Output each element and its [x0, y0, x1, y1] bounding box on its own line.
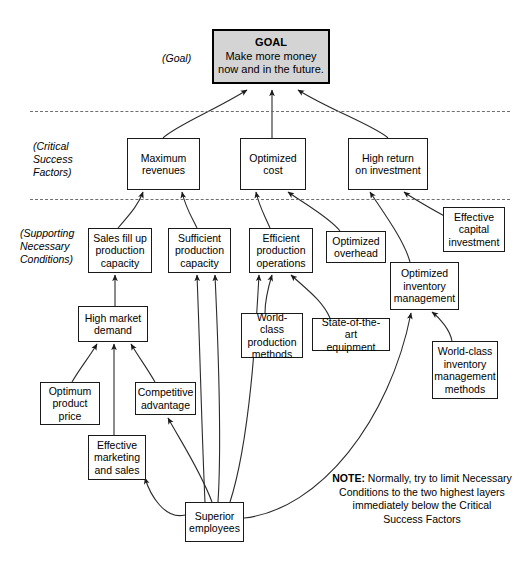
- node-superior-employees[interactable]: Superioremployees: [185, 502, 244, 542]
- node-world-class-production-methods[interactable]: World-classproductionmethods: [241, 313, 303, 358]
- divider-goal-csf: [30, 111, 510, 112]
- node-label: Competitiveadvantage: [138, 386, 193, 411]
- node-state-of-the-art-equipment[interactable]: State-of-the-artequipment: [312, 318, 390, 351]
- node-sales-fill-up-production-capacity[interactable]: Sales fill upproductioncapacity: [88, 228, 152, 273]
- goal-tree-diagram: (Goal)(CriticalSuccessFactors)(Supportin…: [0, 0, 532, 572]
- goal-line-2: now and in the future.: [218, 63, 324, 77]
- csf-label: (CriticalSuccessFactors): [33, 140, 113, 179]
- edge-e-salesfill-maxrev: [118, 192, 143, 228]
- node-goal[interactable]: GOALMake more moneynow and in the future…: [212, 29, 330, 84]
- node-optimized-cost[interactable]: Optimizedcost: [240, 138, 306, 190]
- node-label: State-of-the-artequipment: [316, 316, 386, 354]
- node-label: World-classproductionmethods: [245, 311, 299, 361]
- node-label: Effectivecapitalinvestment: [449, 211, 500, 249]
- note-body: Normally, try to limit Necessary Conditi…: [339, 472, 512, 525]
- edge-e-supemp-effmkt: [145, 478, 185, 516]
- node-high-return-on-investment[interactable]: High returnon investment: [348, 138, 428, 190]
- edge-e-supemp-sufficient2: [215, 275, 220, 502]
- node-label: GOALMake more moneynow and in the future…: [218, 36, 324, 77]
- node-maximum-revenues[interactable]: Maximumrevenues: [127, 138, 200, 190]
- node-label: Optimizedoverhead: [332, 235, 379, 260]
- edge-e-efficient-optcost: [256, 192, 270, 228]
- node-optimized-overhead[interactable]: Optimizedoverhead: [326, 231, 386, 263]
- edge-e-highret-goal: [298, 90, 388, 138]
- node-high-market-demand[interactable]: High marketdemand: [78, 306, 148, 342]
- edge-e-optprice-highmkt: [72, 344, 97, 382]
- node-optimum-product-price[interactable]: Optimumproductprice: [40, 382, 100, 425]
- node-effective-marketing-and-sales[interactable]: Effectivemarketingand sales: [88, 435, 146, 480]
- node-sufficient-production-capacity[interactable]: Sufficientproductioncapacity: [168, 228, 231, 273]
- node-effective-capital-investment[interactable]: Effectivecapitalinvestment: [443, 207, 505, 252]
- edge-e-sufficient-maxrev: [182, 192, 197, 228]
- edge-e-compadv-highmkt: [131, 344, 155, 382]
- goal-line-1: Make more money: [218, 50, 324, 64]
- edge-e-effcap-highret: [404, 192, 446, 217]
- node-label: Optimizedcost: [249, 152, 296, 177]
- note-text: NOTE: Normally, try to limit Necessary C…: [332, 472, 512, 526]
- edge-e-supemp-compadv: [168, 418, 212, 502]
- edge-e-supemp-efficient: [230, 275, 259, 502]
- node-label: Superioremployees: [189, 510, 240, 535]
- node-optimized-inventory-management[interactable]: Optimizedinventorymanagement: [390, 262, 459, 310]
- node-label: High marketdemand: [85, 312, 142, 337]
- goal-title: GOAL: [218, 36, 324, 50]
- node-label: Sales fill upproductioncapacity: [93, 232, 147, 270]
- divider-csf-snc: [30, 199, 510, 200]
- edge-e-supemp-sufficient: [197, 275, 205, 502]
- edge-e-wcinv-optinv: [432, 312, 452, 341]
- node-efficient-production-operations[interactable]: Efficientproductionoperations: [249, 228, 313, 273]
- edge-e-wcprod-efficient: [265, 275, 272, 313]
- node-world-class-inventory-management-methods[interactable]: World-classinventorymanagementmethods: [432, 341, 498, 399]
- node-label: Optimizedinventorymanagement: [394, 267, 455, 305]
- node-label: World-classinventorymanagementmethods: [434, 345, 495, 395]
- node-label: High returnon investment: [355, 152, 420, 177]
- edge-e-optoverhead-optcost: [288, 192, 340, 231]
- node-label: Optimumproductprice: [49, 385, 92, 423]
- node-label: Maximumrevenues: [141, 152, 187, 177]
- node-label: Efficientproductionoperations: [256, 232, 305, 270]
- node-label: Sufficientproductioncapacity: [175, 232, 224, 270]
- node-label: Effectivemarketingand sales: [94, 439, 140, 477]
- node-competitive-advantage[interactable]: Competitiveadvantage: [135, 382, 196, 415]
- edge-e-maxrev-goal: [163, 90, 247, 138]
- note-lead: NOTE:: [332, 472, 365, 484]
